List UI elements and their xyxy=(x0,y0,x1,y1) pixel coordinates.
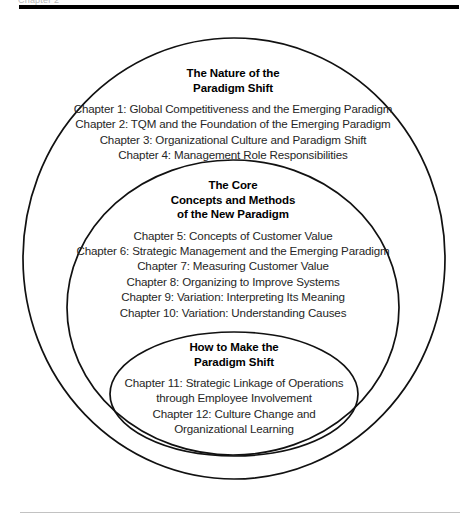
middle-ring-heading: The Core Concepts and Methods of the New… xyxy=(68,178,398,222)
figure-page: Chapter 2 The Nature of the Paradigm Shi… xyxy=(0,0,467,527)
chapter-entry: Chapter 5: Concepts of Customer Value xyxy=(68,228,398,243)
inner-ring-heading-line-1: How to Make the xyxy=(112,340,356,355)
middle-ring-heading-line-2: Concepts and Methods xyxy=(68,193,398,208)
chapter-entry: Chapter 10: Variation: Understanding Cau… xyxy=(68,305,398,320)
chapter-entry: Chapter 12: Culture Change and xyxy=(112,406,356,421)
chapter-entry: through Employee Involvement xyxy=(112,390,356,405)
outer-ring-heading-line-1: The Nature of the xyxy=(33,66,433,81)
chapter-entry: Organizational Learning xyxy=(112,421,356,436)
chapter-entry: Chapter 2: TQM and the Foundation of the… xyxy=(33,116,433,131)
chapter-entry: Chapter 11: Strategic Linkage of Operati… xyxy=(112,375,356,390)
outer-ring-heading: The Nature of the Paradigm Shift xyxy=(33,66,433,95)
chapter-entry: Chapter 4: Management Role Responsibilit… xyxy=(33,147,433,162)
chapter-entry: Chapter 9: Variation: Interpreting Its M… xyxy=(68,289,398,304)
middle-ring-text-block: The Core Concepts and Methods of the New… xyxy=(68,178,398,320)
chapter-entry: Chapter 6: Strategic Management and the … xyxy=(68,243,398,258)
inner-ring-heading-line-2: Paradigm Shift xyxy=(112,355,356,370)
middle-ring-chapter-list: Chapter 5: Concepts of Customer Value Ch… xyxy=(68,228,398,320)
middle-ring-heading-line-3: of the New Paradigm xyxy=(68,207,398,222)
outer-ring-chapter-list: Chapter 1: Global Competitiveness and th… xyxy=(33,101,433,163)
outer-ring-text-block: The Nature of the Paradigm Shift Chapter… xyxy=(33,66,433,163)
middle-ring-heading-line-1: The Core xyxy=(68,178,398,193)
chapter-entry: Chapter 7: Measuring Customer Value xyxy=(68,258,398,273)
inner-ring-heading: How to Make the Paradigm Shift xyxy=(112,340,356,369)
inner-ring-chapter-list: Chapter 11: Strategic Linkage of Operati… xyxy=(112,375,356,437)
chapter-entry: Chapter 3: Organizational Culture and Pa… xyxy=(33,132,433,147)
chapter-entry: Chapter 1: Global Competitiveness and th… xyxy=(33,101,433,116)
inner-ring-text-block: How to Make the Paradigm Shift Chapter 1… xyxy=(112,340,356,437)
chapter-entry: Chapter 8: Organizing to Improve Systems xyxy=(68,274,398,289)
outer-ring-heading-line-2: Paradigm Shift xyxy=(33,81,433,96)
